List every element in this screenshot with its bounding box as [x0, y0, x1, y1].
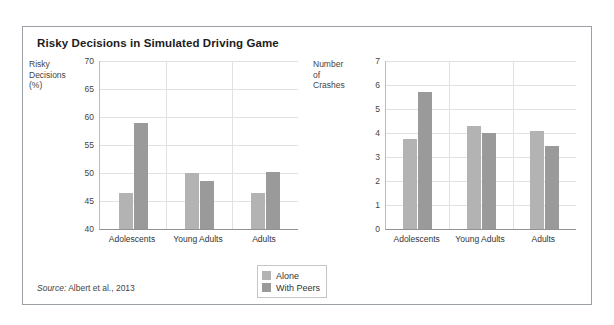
- y-axis-tick-label: 70: [28, 56, 94, 66]
- x-axis-tick-label: Adolescents: [99, 234, 165, 244]
- gridline: [386, 61, 576, 62]
- bar: [251, 193, 265, 229]
- x-axis-tick-label: Adults: [512, 234, 575, 244]
- bar: [266, 172, 280, 229]
- y-axis-tick-label: 3: [314, 152, 380, 162]
- x-axis-tick-label: Young Adults: [448, 234, 511, 244]
- y-axis-tick-label: 60: [28, 112, 94, 122]
- y-axis-tick-label: 65: [28, 84, 94, 94]
- figure-title: Risky Decisions in Simulated Driving Gam…: [37, 37, 279, 49]
- legend-label: Alone: [276, 271, 299, 281]
- bar: [119, 193, 133, 229]
- y-axis-tick-label: 6: [314, 80, 380, 90]
- gridline: [100, 117, 298, 118]
- bar: [418, 92, 432, 229]
- gridline: [100, 145, 298, 146]
- plot-area-left: [99, 61, 298, 230]
- y-axis-tick-label: 5: [314, 104, 380, 114]
- y-axis-tick-label: 1: [314, 200, 380, 210]
- legend-item: Alone: [262, 270, 320, 281]
- bar: [185, 173, 199, 229]
- gridline: [100, 61, 298, 62]
- bar: [403, 139, 417, 229]
- category-divider: [449, 61, 450, 229]
- gridline: [386, 133, 576, 134]
- bar: [134, 123, 148, 229]
- x-axis-tick-label: Adults: [231, 234, 297, 244]
- source-citation: Albert et al., 2013: [66, 283, 135, 293]
- y-axis-tick-label: 0: [314, 224, 380, 234]
- gridline: [100, 89, 298, 90]
- bar: [200, 181, 214, 229]
- x-axis-tick-label: Adolescents: [385, 234, 448, 244]
- legend-swatch: [262, 271, 271, 280]
- category-divider: [166, 61, 167, 229]
- source-note: Source: Albert et al., 2013: [37, 283, 135, 293]
- gridline: [386, 109, 576, 110]
- bar: [482, 133, 496, 229]
- source-label: Source:: [37, 283, 66, 293]
- category-divider: [232, 61, 233, 229]
- y-axis-tick-label: 45: [28, 196, 94, 206]
- x-axis-tick-label: Young Adults: [165, 234, 231, 244]
- legend: AloneWith Peers: [257, 265, 327, 298]
- y-axis-tick-label: 4: [314, 128, 380, 138]
- bar: [530, 131, 544, 229]
- y-axis-tick-label: 7: [314, 56, 380, 66]
- bar: [467, 126, 481, 229]
- figure-frame: Risky Decisions in Simulated Driving Gam…: [22, 26, 592, 305]
- legend-swatch: [262, 283, 271, 292]
- y-axis-tick-label: 55: [28, 140, 94, 150]
- y-axis-tick-label: 40: [28, 224, 94, 234]
- category-divider: [513, 61, 514, 229]
- legend-label: With Peers: [276, 283, 320, 293]
- y-axis-tick-label: 2: [314, 176, 380, 186]
- bar: [545, 146, 559, 229]
- y-axis-tick-label: 50: [28, 168, 94, 178]
- legend-item: With Peers: [262, 282, 320, 293]
- plot-area-right: [385, 61, 576, 230]
- gridline: [386, 85, 576, 86]
